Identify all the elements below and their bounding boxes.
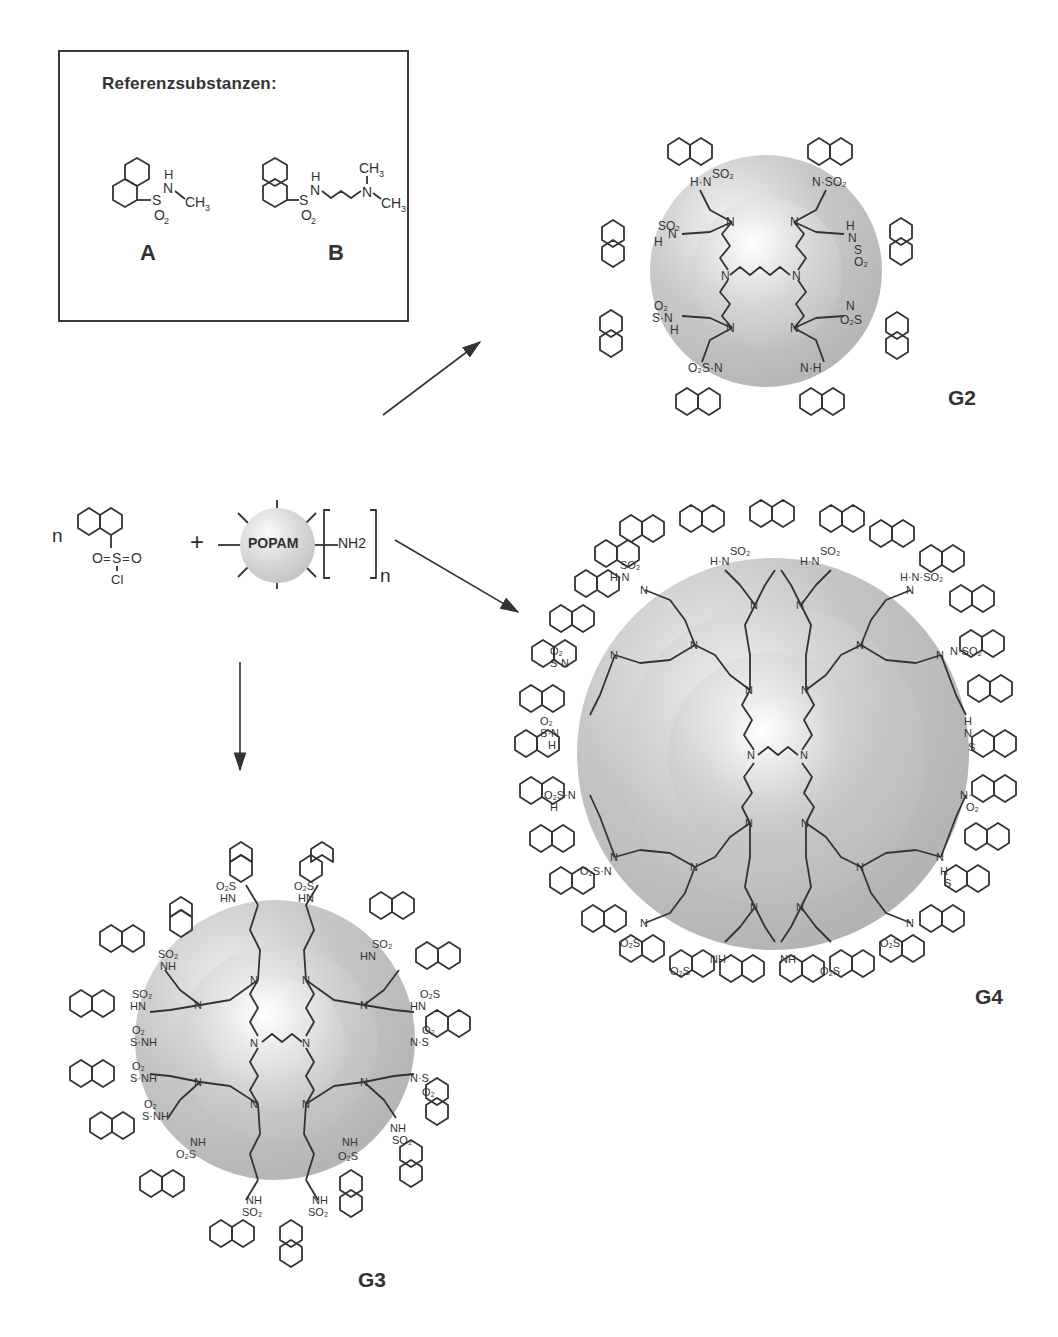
g4-naphthyl-groups <box>520 545 1000 985</box>
g2-label: G2 <box>948 386 976 410</box>
dendrimer-g3: NN NN NN NN NN HNO₂S HNO₂S NHSO₂ HNSO₂ H… <box>70 850 480 1250</box>
g3-label: G3 <box>358 1268 386 1292</box>
dendrimer-g2: NN NN NN H·NSO₂ N·SO₂ SO₂HN HNSO₂ O₂S·NH… <box>640 150 890 400</box>
g2-naphthyl-groups <box>590 90 950 470</box>
g3-naphthyl-groups <box>70 850 480 1250</box>
dendrimer-g4: NN NN NN NN NN NN NN NN NN NN NN H·NSO₂ … <box>520 545 1000 985</box>
g4-label: G4 <box>975 985 1003 1009</box>
